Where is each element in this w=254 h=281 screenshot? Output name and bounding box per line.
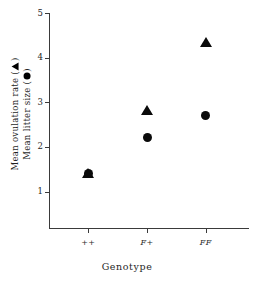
y-axis-title: Mean ovulation rate () Mean litter size … (6, 0, 36, 228)
x-tick-label: FF (186, 238, 226, 247)
x-tick-label: ++ (68, 238, 108, 247)
x-tick-mark (88, 229, 89, 233)
x-tick-mark (206, 229, 207, 233)
x-axis-title: Genotype (0, 261, 254, 272)
y-axis-title-line-litter-size: Mean litter size () (21, 57, 33, 170)
y-axis-title-line2-text: Mean litter size ( (22, 81, 32, 160)
data-point-circle (84, 169, 93, 178)
chart-figure: 54321 ++F+FF Mean ovulation rate () Mean… (0, 0, 254, 281)
y-axis-title-line-ovulation-rate: Mean ovulation rate () (9, 57, 21, 170)
data-point-circle (143, 133, 152, 142)
y-axis-title-line1-close: ) (10, 57, 20, 61)
circle-legend-icon (24, 73, 31, 80)
y-axis-title-line2-close: ) (22, 68, 32, 72)
x-tick-label: F+ (127, 238, 167, 247)
data-point-triangle (141, 105, 153, 115)
data-point-triangle (200, 37, 212, 47)
y-axis-title-line1-text: Mean ovulation rate ( (10, 71, 20, 170)
plot-area (49, 14, 249, 228)
triangle-legend-icon (12, 62, 19, 70)
x-axis-spine (49, 228, 249, 229)
x-tick-mark (147, 229, 148, 233)
